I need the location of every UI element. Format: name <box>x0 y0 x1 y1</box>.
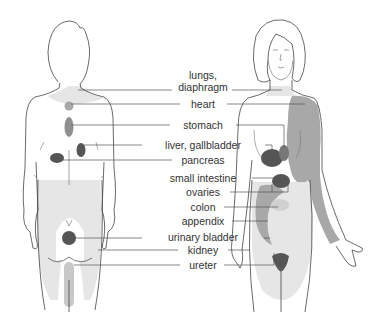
label-liver-gallbladder: liver, gallbladder <box>165 140 241 151</box>
label-diaphragm: diaphragm <box>178 82 228 93</box>
front-small-intestine-region <box>272 174 290 188</box>
label-colon: colon <box>190 202 215 213</box>
label-appendix: appendix <box>182 216 225 227</box>
label-lungs: lungs, <box>189 70 217 81</box>
label-stomach: stomach <box>183 120 223 131</box>
referred-pain-diagram: lungs, diaphragm heart stomach liver, ga… <box>0 0 392 325</box>
label-ureter: ureter <box>189 260 216 271</box>
label-ovaries: ovaries <box>186 187 220 198</box>
front-face-outline <box>268 60 293 80</box>
label-kidney: kidney <box>188 245 218 256</box>
leader-stomach-right <box>236 125 284 148</box>
label-pancreas: pancreas <box>181 155 224 166</box>
back-stomach-region <box>65 117 74 137</box>
back-heart-region <box>65 102 74 111</box>
back-figure <box>23 21 115 312</box>
front-hair-outline <box>253 20 305 82</box>
front-figure <box>232 20 363 312</box>
label-small-intestine: small intestine <box>170 173 237 184</box>
front-face-features <box>273 50 289 68</box>
front-neck-region <box>266 86 296 96</box>
back-pancreas-region <box>50 153 64 163</box>
label-heart: heart <box>191 99 215 110</box>
label-urinary-bladder: urinary bladder <box>168 232 238 243</box>
front-ovary-region <box>271 199 289 211</box>
back-head-outline <box>48 21 90 84</box>
